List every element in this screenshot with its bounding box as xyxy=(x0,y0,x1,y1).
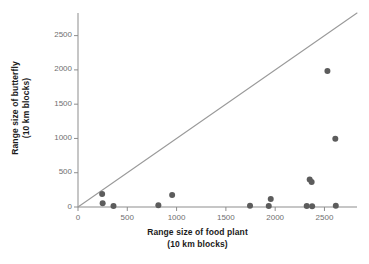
data-point xyxy=(324,68,330,74)
x-axis-tick-label: 1500 xyxy=(206,213,246,222)
data-point xyxy=(266,203,272,209)
data-point xyxy=(309,179,315,185)
scatter-chart-figure: Range size of butterfly (10 km blocks) R… xyxy=(0,0,369,264)
data-point xyxy=(332,136,338,142)
x-axis-tick-label: 2500 xyxy=(304,213,344,222)
y-axis-tick-label: 2000 xyxy=(54,64,72,73)
x-axis-tick-label: 2000 xyxy=(255,213,295,222)
y-axis-tick-label: 2500 xyxy=(54,30,72,39)
data-point xyxy=(100,200,106,206)
one-to-one-reference-line xyxy=(78,13,357,207)
x-axis-tick-label: 0 xyxy=(58,213,98,222)
y-axis-tick-label: 0 xyxy=(68,202,72,211)
data-point xyxy=(247,203,253,209)
y-axis-tick-label: 500 xyxy=(59,167,72,176)
data-point xyxy=(333,203,339,209)
y-axis-tick-label: 1000 xyxy=(54,133,72,142)
x-axis-tick-label: 500 xyxy=(107,213,147,222)
data-point xyxy=(99,191,105,197)
x-axis-tick-label: 1000 xyxy=(157,213,197,222)
data-point xyxy=(110,203,116,209)
data-point xyxy=(155,202,161,208)
y-axis-tick-label: 1500 xyxy=(54,99,72,108)
data-point xyxy=(169,192,175,198)
data-point xyxy=(304,203,310,209)
data-point xyxy=(309,203,315,209)
data-point xyxy=(268,196,274,202)
